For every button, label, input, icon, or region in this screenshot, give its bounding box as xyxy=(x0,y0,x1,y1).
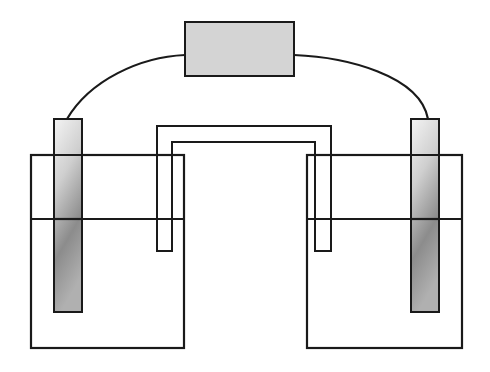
meter-box xyxy=(185,22,294,76)
left-electrode xyxy=(54,119,82,312)
electrochemical-cell-diagram xyxy=(0,0,490,372)
left-wire xyxy=(67,55,185,119)
right-electrode xyxy=(411,119,439,312)
right-wire xyxy=(294,55,428,119)
